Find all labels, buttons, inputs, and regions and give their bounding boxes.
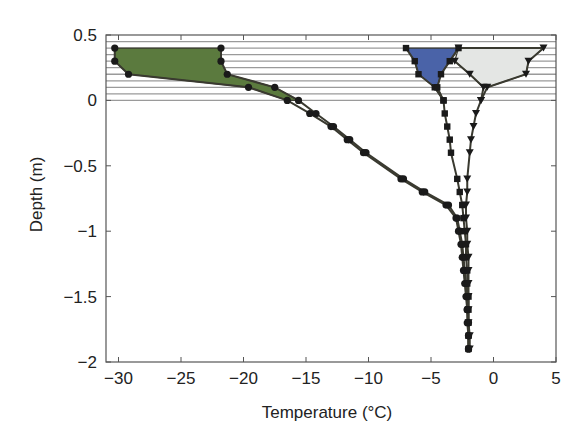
circle-marker	[284, 97, 291, 104]
square-marker	[447, 136, 453, 142]
square-marker	[440, 97, 446, 103]
triangle-marker	[467, 136, 475, 143]
circle-marker	[421, 188, 428, 195]
x-tick-label: −15	[292, 369, 321, 388]
square-marker	[457, 189, 463, 195]
y-tick-label: −2	[78, 353, 97, 372]
y-tick-label: 0.5	[73, 26, 97, 45]
circle-marker	[217, 44, 224, 51]
square-marker	[454, 176, 460, 182]
triangle-marker	[463, 175, 471, 182]
circle-marker	[330, 123, 337, 130]
triangle-marker	[466, 149, 474, 156]
circle-marker	[111, 44, 118, 51]
circle-marker	[271, 84, 278, 91]
circle-marker	[346, 136, 353, 143]
circle-marker	[362, 149, 369, 156]
y-tick-label: 0	[88, 91, 97, 110]
square-marker	[442, 110, 448, 116]
profile-lines	[115, 48, 544, 349]
y-axis-title: Depth (m)	[27, 157, 46, 233]
square-marker	[412, 58, 418, 64]
x-tick-label: −20	[229, 369, 258, 388]
x-axis-title: Temperature (°C)	[262, 403, 393, 422]
y-tick-label: −1.5	[63, 288, 97, 307]
square-marker	[415, 71, 421, 77]
circle-marker	[312, 110, 319, 117]
x-tick-label: 5	[551, 369, 560, 388]
y-tick-label: −1	[78, 222, 97, 241]
circle-marker	[295, 97, 302, 104]
circle-marker	[111, 58, 118, 65]
square-marker	[434, 84, 440, 90]
circle-marker	[224, 71, 231, 78]
square-marker	[438, 71, 444, 77]
circle-marker	[125, 71, 132, 78]
circle-marker	[445, 201, 452, 208]
x-tick-label: −10	[354, 369, 383, 388]
triangle-marker	[463, 188, 471, 195]
x-tick-label: −5	[421, 369, 440, 388]
square-marker	[444, 123, 450, 129]
x-tick-label: −25	[167, 369, 196, 388]
circle-marker	[454, 215, 461, 222]
depth-temperature-chart: −30−25−20−15−10−505 0.50−0.5−1−1.5−2 Tem…	[0, 0, 581, 444]
triangle-marker	[472, 110, 480, 117]
cold-profile-circles-line	[115, 48, 469, 349]
square-marker	[448, 150, 454, 156]
cold-profile-circles-2-line	[221, 48, 469, 349]
circle-marker	[400, 175, 407, 182]
square-marker	[403, 45, 409, 51]
y-tick-label: −0.5	[63, 157, 97, 176]
triangle-marker	[470, 123, 478, 130]
x-tick-label: −30	[104, 369, 133, 388]
x-tick-label: 0	[489, 369, 498, 388]
circle-marker	[306, 110, 313, 117]
circle-marker	[245, 84, 252, 91]
circle-marker	[217, 58, 224, 65]
